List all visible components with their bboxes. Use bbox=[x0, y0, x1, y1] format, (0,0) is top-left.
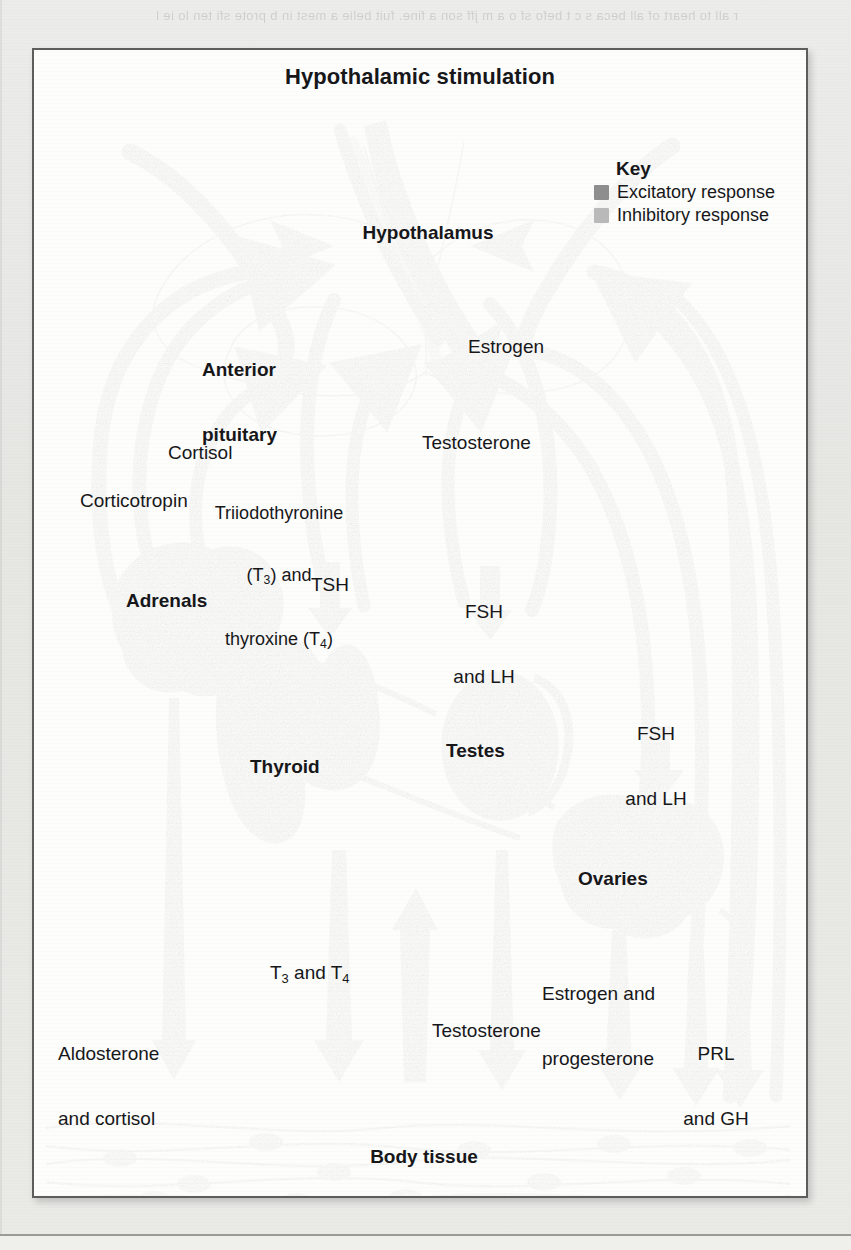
effector-label-estrogen-progesterone: Estrogen and progesterone bbox=[542, 940, 655, 1113]
legend-title: Key bbox=[616, 158, 775, 180]
estprog-line1: Estrogen and bbox=[542, 983, 655, 1005]
testosterone-output-arrow bbox=[478, 850, 526, 1090]
fsh-lh-testes-line1: FSH bbox=[453, 601, 514, 623]
legend-item-excitatory: Excitatory response bbox=[594, 182, 775, 203]
legend-label-inhibitory: Inhibitory response bbox=[617, 205, 769, 226]
aldo-line2: and cortisol bbox=[58, 1108, 159, 1130]
feedback-label-estrogen: Estrogen bbox=[468, 336, 544, 358]
fsh-lh-testes-line2: and LH bbox=[453, 666, 514, 688]
organ-label-hypothalamus: Hypothalamus bbox=[363, 222, 494, 244]
t3t4-line1: Triiodothyronine bbox=[164, 503, 394, 524]
figure-frame: Hypothalamic stimulation Key Excitatory … bbox=[32, 48, 808, 1198]
legend-label-excitatory: Excitatory response bbox=[617, 182, 775, 203]
prlgh-line1: PRL bbox=[683, 1043, 748, 1065]
page-bleedthrough-text: r all to heart of all beca s c t befo sf… bbox=[18, 6, 738, 48]
feedback-label-t3-t4: Triiodothyronine (T3) and thyroxine (T4) bbox=[164, 462, 394, 693]
fsh-lh-ovaries-line2: and LH bbox=[625, 788, 686, 810]
tissue-feedback-up-arrow bbox=[392, 888, 438, 1082]
estprog-line2: progesterone bbox=[542, 1048, 655, 1070]
organ-label-ovaries: Ovaries bbox=[578, 868, 648, 890]
effector-label-t3-and-t4: T3 and T4 bbox=[270, 962, 350, 986]
organ-label-body-tissue: Body tissue bbox=[370, 1146, 478, 1168]
t3t4-line3: thyroxine (T4) bbox=[164, 629, 394, 652]
anterior-pituitary-line1: Anterior bbox=[202, 359, 277, 381]
legend-key: Key Excitatory response Inhibitory respo… bbox=[594, 158, 775, 226]
legend-item-inhibitory: Inhibitory response bbox=[594, 205, 775, 226]
effector-label-aldosterone-cortisol: Aldosterone and cortisol bbox=[58, 1000, 159, 1173]
organ-label-thyroid: Thyroid bbox=[250, 756, 320, 778]
legend-swatch-inhibitory bbox=[594, 208, 609, 223]
legend-swatch-excitatory bbox=[594, 185, 609, 200]
feedback-label-testosterone: Testosterone bbox=[422, 432, 531, 454]
effector-label-prl-gh: PRL and GH bbox=[683, 1000, 748, 1173]
effector-label-testosterone: Testosterone bbox=[432, 1020, 541, 1042]
tropic-label-fsh-lh-ovaries: FSH and LH bbox=[625, 680, 686, 853]
fsh-lh-ovaries-line1: FSH bbox=[625, 723, 686, 745]
organ-label-testes: Testes bbox=[446, 740, 505, 762]
tropic-label-tsh: TSH bbox=[311, 574, 349, 596]
t3t4-line2: (T3) and bbox=[164, 565, 394, 588]
page-bottom-edge bbox=[0, 1234, 851, 1250]
feedback-label-cortisol: Cortisol bbox=[168, 442, 232, 464]
prlgh-line2: and GH bbox=[683, 1108, 748, 1130]
diagram-title: Hypothalamic stimulation bbox=[285, 64, 555, 89]
aldo-line1: Aldosterone bbox=[58, 1043, 159, 1065]
tropic-label-fsh-lh-testes: FSH and LH bbox=[453, 558, 514, 731]
